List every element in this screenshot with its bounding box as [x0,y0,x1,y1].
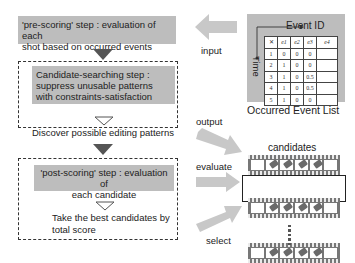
hollow-down-arrow-icon [94,116,114,126]
candidate-film-strip[interactable] [248,243,340,263]
output-arrow-icon [196,128,244,158]
camera-icon [313,247,323,257]
camera-icon [269,159,279,169]
table-row: 4100.5 [265,83,338,95]
header-cell: e1 [278,37,291,49]
event-table-header: ✕ e1 e2 e3 e4 [265,37,338,49]
camera-icon [298,247,308,257]
output-label: output [196,116,222,127]
header-cell: e3 [304,37,317,49]
best-candidates-text-line2: total score [52,224,96,235]
more-candidates-ellipsis [288,225,291,247]
event-table: ✕ e1 e2 e3 e4 1000 2100 3100.5 4100.5 51… [264,36,338,106]
camera-icon [283,202,293,212]
evaluate-arrow-icon [196,172,240,192]
pre-scoring-line1: 'pre-scoring' step : evaluation of each [22,19,172,41]
pre-scoring-step-box: 'pre-scoring' step : evaluation of each … [18,16,176,44]
post-scoring-line2: each candidate [37,189,171,200]
event-id-axis-label: Event ID [286,20,324,31]
candidates-title: candidates [268,142,316,153]
candidate-film-strip-selected[interactable] [248,198,340,218]
event-list-caption: Occurred Event List [247,104,339,116]
camera-icon [269,202,279,212]
input-arrow-icon [195,14,237,40]
camera-icon [313,202,323,212]
select-label: select [206,235,231,246]
candidate-film-strip[interactable] [248,155,340,175]
discover-patterns-text: Discover possible editing patterns [32,127,174,138]
table-row: 2100 [265,60,338,72]
header-cell: e4 [317,37,338,49]
select-arrow-icon [196,204,244,234]
camera-icon [298,159,308,169]
corner-cell: ✕ [265,37,278,49]
table-row: 3100.5 [265,71,338,83]
header-cell: e2 [291,37,304,49]
camera-icon [298,202,308,212]
candidate-search-line1: Candidate-searching step : [36,69,171,80]
table-row: 1000 [265,48,338,60]
post-scoring-line1: 'post-scoring' step : evaluation of [37,167,171,189]
candidate-search-line3: with constraints-satisfaction [36,91,171,102]
camera-icon [269,247,279,257]
post-scoring-step-box: 'post-scoring' step : evaluation of each… [34,165,174,191]
camera-icon [283,247,293,257]
time-axis-label: Time [251,56,262,77]
down-arrow-icon [93,49,113,60]
input-label: input [201,45,222,56]
camera-icon [283,159,293,169]
camera-icon [313,159,323,169]
best-candidates-text-line1: Take the best candidates by [52,212,170,223]
evaluate-label: evaluate [196,161,232,172]
candidate-search-step-box: Candidate-searching step : suppress unus… [32,66,175,104]
hollow-down-arrow-icon [95,201,115,211]
down-arrow-icon [93,144,113,155]
candidate-search-line2: suppress unusable patterns [36,80,171,91]
